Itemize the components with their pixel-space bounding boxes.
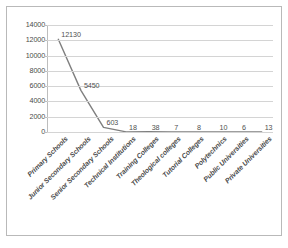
gridline (47, 101, 273, 102)
data-point-label: 8 (197, 124, 201, 132)
y-axis-tick-label: 14000 (11, 21, 45, 29)
x-axis-category-label: Tutorial Colleges (161, 135, 205, 179)
data-point-label: 5450 (84, 82, 100, 90)
data-point-label: 38 (152, 124, 160, 132)
y-axis-tick-mark (44, 56, 47, 57)
y-axis-tick-label: 8000 (11, 67, 45, 75)
chart-figure: 14000120001000080006000400020000 1213054… (6, 6, 282, 236)
y-axis-tick-label: 4000 (11, 97, 45, 105)
y-axis-tick-mark (44, 101, 47, 102)
gridline (47, 117, 273, 118)
y-axis-tick-label: 12000 (11, 36, 45, 44)
gridline (47, 71, 273, 72)
y-axis-tick-mark (44, 25, 47, 26)
y-axis-tick-label: 10000 (11, 52, 45, 60)
x-axis-category-labels: Primary SchoolsJunior Secondary SchoolsS… (47, 133, 283, 237)
y-axis-tick-label: 0 (11, 128, 45, 136)
data-point-label: 12130 (61, 31, 81, 39)
data-point-label: 603 (107, 119, 119, 127)
chart-plot-wrapper: 14000120001000080006000400020000 1213054… (7, 7, 283, 237)
y-axis-tick-mark (44, 117, 47, 118)
gridline (47, 25, 273, 26)
data-point-label: 6 (242, 124, 246, 132)
y-axis-tick-label: 2000 (11, 113, 45, 121)
x-axis-category-label: Private Universities (223, 135, 272, 184)
plot-area: 12130545060318387810613 (47, 25, 273, 132)
data-point-label: 7 (174, 124, 178, 132)
y-axis-tick-mark (44, 86, 47, 87)
data-point-label: 13 (265, 124, 273, 132)
y-axis-tick-mark (44, 40, 47, 41)
gridline (47, 40, 273, 41)
data-point-label: 10 (220, 124, 228, 132)
y-axis-tick-mark (44, 71, 47, 72)
gridline (47, 86, 273, 87)
gridline (47, 56, 273, 57)
y-axis-tick-labels: 14000120001000080006000400020000 (11, 7, 45, 237)
y-axis-tick-label: 6000 (11, 82, 45, 90)
data-point-label: 18 (129, 124, 137, 132)
